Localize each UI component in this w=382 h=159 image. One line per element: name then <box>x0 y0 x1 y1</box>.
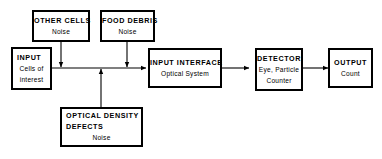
food-debris-subtitle: Noise <box>102 28 153 37</box>
food-debris-title: FOOD DEBRIS <box>102 16 153 25</box>
box-food-debris: FOOD DEBRIS Noise <box>100 10 155 42</box>
detector-title: DETECTOR <box>257 54 301 63</box>
other-cells-subtitle: Noise <box>34 28 88 37</box>
output-title: OUTPUT <box>330 58 371 67</box>
input-subtitle-line2: interest <box>13 76 50 85</box>
input-interface-title: INPUT INTERFACE <box>150 58 220 67</box>
detector-subtitle-line1: Eye, Particle <box>257 66 301 75</box>
block-flow-diagram: OTHER CELLS Noise FOOD DEBRIS Noise INPU… <box>0 0 382 159</box>
input-title: INPUT <box>13 53 50 62</box>
optical-density-title-line1: OPTICAL DENSITY <box>62 111 141 120</box>
other-cells-title: OTHER CELLS <box>34 16 88 25</box>
box-optical-density-defects: OPTICAL DENSITY DEFECTS Noise <box>60 107 143 147</box>
box-detector: DETECTOR Eye, Particle Counter <box>255 48 303 91</box>
box-other-cells: OTHER CELLS Noise <box>32 10 90 42</box>
detector-subtitle-line2: Counter <box>257 77 301 86</box>
optical-density-subtitle: Noise <box>62 134 141 143</box>
box-input-interface: INPUT INTERFACE Optical System <box>148 48 222 88</box>
optical-density-title-line2: DEFECTS <box>62 122 141 131</box>
box-input: INPUT Cells of interest <box>11 47 52 90</box>
input-interface-subtitle: Optical System <box>150 70 220 79</box>
input-subtitle-line1: Cells of <box>13 65 50 74</box>
output-subtitle: Count <box>330 70 371 79</box>
box-output: OUTPUT Count <box>328 48 373 88</box>
